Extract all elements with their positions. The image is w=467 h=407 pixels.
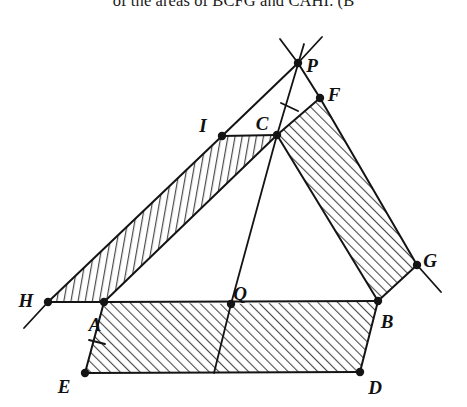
caption-strip: of the areas of BCFG and CAHI. (B [0,0,467,15]
vertex-point-b [374,297,382,305]
vertex-label-b: B [380,311,394,332]
vertex-point-c [273,131,281,139]
vertex-label-e: E [57,376,71,397]
geometry-figure: of the areas of BCFG and CAHI. (B PFCIHA… [0,0,467,407]
vertex-label-a: A [88,314,102,335]
parallelogram-cahi [48,135,277,302]
vertex-point-f [316,94,324,102]
segment-ih [48,136,222,302]
vertex-label-h: H [18,290,35,311]
segment-ca [104,135,277,302]
diagram-svg: PFCIHAQBGED [0,15,467,407]
vertex-label-p: P [305,55,318,76]
hatched-regions-layer [48,98,417,373]
vertex-label-f: F [327,84,341,105]
vertex-point-h [44,298,52,306]
parallelogram-bcfg [277,98,417,301]
vertex-point-i [218,132,226,140]
vertex-point-d [356,368,364,376]
vertex-point-a [100,298,108,306]
vertex-label-g: G [423,250,437,271]
vertex-label-d: D [367,377,382,398]
parallelogram-abde-right [214,301,378,373]
parallelogram-abde-left [85,302,231,373]
ray-p-up-left [280,39,298,63]
vertex-point-g [413,261,421,269]
caption-text: of the areas of BCFG and CAHI. (B [113,0,355,11]
vertex-point-e [81,369,89,377]
vertex-label-c: C [256,113,269,134]
diagram-canvas: PFCIHAQBGED [0,15,467,407]
segment-ed [85,372,360,373]
segment-ci [222,135,277,136]
vertex-label-i: I [198,115,207,136]
vertex-point-p [294,59,302,67]
vertex-label-q: Q [233,283,247,304]
